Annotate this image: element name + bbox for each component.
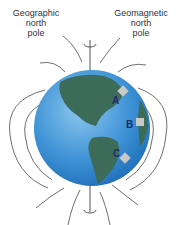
earth-magnetic-field-diagram: A B C bbox=[0, 0, 176, 225]
point-c-label: C bbox=[113, 148, 120, 159]
point-a-label: A bbox=[112, 95, 119, 106]
marker-b bbox=[136, 118, 144, 126]
point-b-label: B bbox=[126, 119, 133, 130]
